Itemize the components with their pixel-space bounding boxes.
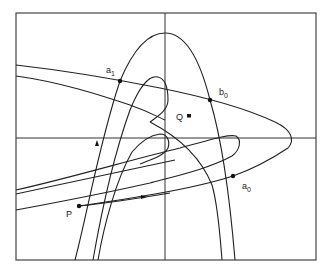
lower-tongue-curve — [16, 160, 175, 194]
label-a0: a0 — [242, 181, 251, 193]
inner-arch-curve-1 — [93, 77, 168, 260]
label-b0: b0 — [219, 87, 228, 99]
inner-arch-curve-2 — [98, 134, 169, 260]
point-a1 — [118, 79, 122, 83]
label-p: P — [66, 209, 72, 219]
point-q — [187, 114, 191, 118]
arrow-up-icon — [95, 140, 99, 146]
second-tongue-curve — [16, 76, 165, 120]
right-descending-curve — [150, 122, 222, 260]
point-p — [77, 204, 81, 208]
tangle-diagram: a1 b0 Q P a0 — [0, 0, 328, 275]
label-a1: a1 — [106, 65, 115, 77]
label-q: Q — [176, 112, 183, 122]
point-b0 — [208, 98, 212, 102]
point-a0 — [231, 174, 235, 178]
